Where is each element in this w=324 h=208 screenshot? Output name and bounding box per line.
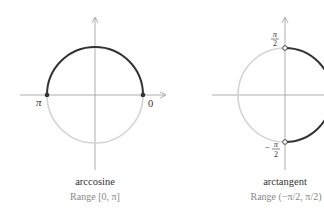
closed-endpoint-pi: [45, 93, 50, 98]
zero-label: 0: [148, 98, 153, 109]
pi-over-2-label: π 2: [271, 29, 279, 48]
minus-pi-over-2-label: − π 2: [264, 139, 280, 159]
svg-text:π: π: [274, 139, 279, 149]
svg-text:−: −: [264, 142, 269, 152]
open-endpoint-top: [283, 46, 288, 51]
arctangent-panel: π 2 − π 2: [212, 17, 324, 170]
closed-endpoint-zero: [141, 93, 146, 98]
arctangent-title: arctangent: [245, 176, 324, 187]
open-endpoint-bottom: [283, 140, 288, 145]
pi-label: π: [36, 96, 42, 108]
svg-text:π: π: [273, 29, 278, 39]
arccosine-range: Range [0, π]: [50, 191, 140, 202]
arccosine-panel: π 0: [20, 17, 166, 170]
arctangent-range: Range (−π/2, π/2): [236, 191, 324, 202]
arccosine-title: arccosine: [55, 176, 135, 187]
svg-text:2: 2: [274, 150, 278, 159]
svg-text:2: 2: [273, 39, 277, 48]
